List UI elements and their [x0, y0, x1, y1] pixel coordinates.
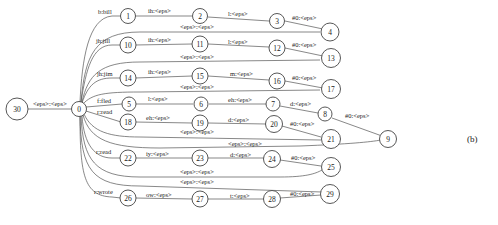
- state-9: 9: [380, 131, 397, 148]
- svg-text:7: 7: [271, 100, 275, 109]
- label-0-25: <eps>:<eps>: [180, 168, 214, 175]
- edge-3-4: [285, 21, 323, 29]
- label-0-9: <eps>:<eps>: [228, 140, 262, 147]
- label-0-4: <eps>:<eps>: [180, 23, 214, 30]
- state-24: 24: [264, 151, 281, 168]
- svg-text:16: 16: [273, 77, 281, 86]
- edge-8-9: [332, 118, 382, 136]
- state-21: 21: [322, 130, 341, 149]
- label-11-12: l:<eps>: [228, 38, 248, 45]
- state-1: 1: [121, 9, 136, 24]
- label-12-13: #0:<eps>: [292, 41, 317, 48]
- label-0-10: jh:jill: [95, 37, 110, 44]
- label-16-17: #0:<eps>: [292, 74, 317, 81]
- state-14: 14: [120, 70, 136, 86]
- svg-text:18: 18: [124, 118, 132, 127]
- edge-19-20: [208, 123, 266, 124]
- svg-text:11: 11: [196, 40, 203, 49]
- label-6-7: eh:<eps>: [228, 96, 252, 103]
- svg-text:19: 19: [196, 119, 204, 128]
- edge-18-19: [135, 122, 192, 123]
- svg-text:4: 4: [328, 28, 332, 37]
- svg-text:20: 20: [270, 120, 278, 129]
- edge-16-17: [285, 81, 323, 88]
- label-14-15: ih:<eps>: [148, 68, 171, 75]
- svg-text:25: 25: [327, 163, 335, 172]
- state-29: 29: [321, 185, 340, 204]
- state-7: 7: [266, 97, 280, 111]
- state-15: 15: [192, 68, 208, 84]
- state-28: 28: [264, 191, 281, 208]
- svg-text:0: 0: [77, 105, 81, 114]
- label-3-4: #0:<eps>: [292, 14, 317, 21]
- state-13: 13: [322, 49, 341, 68]
- state-23: 23: [192, 150, 208, 166]
- label-0-29: <eps>:<eps>: [180, 178, 214, 185]
- svg-text:28: 28: [268, 195, 276, 204]
- svg-text:24: 24: [268, 155, 276, 164]
- state-22: 22: [120, 150, 136, 166]
- svg-text:6: 6: [199, 100, 203, 109]
- label-15-16: m:<eps>: [230, 70, 253, 77]
- label-8-9: #0:<eps>: [345, 112, 370, 119]
- label-0-26: r:wrote: [94, 188, 113, 195]
- label-0-14: jh:jim: [96, 70, 113, 77]
- svg-text:5: 5: [127, 100, 131, 109]
- label-0-5: f:fled: [97, 97, 112, 104]
- label-26-27: ow:<eps>: [146, 191, 172, 198]
- fst-diagram: <eps>:<eps> b:bill ih:<eps> l:<eps> #0:<…: [0, 0, 498, 225]
- label-20-21: #0:<eps>: [290, 120, 315, 127]
- label-1-2: ih:<eps>: [148, 7, 171, 14]
- svg-text:12: 12: [273, 44, 281, 53]
- svg-text:29: 29: [326, 190, 334, 199]
- svg-text:17: 17: [327, 85, 335, 94]
- svg-text:3: 3: [275, 17, 279, 26]
- state-25: 25: [322, 158, 341, 177]
- edge-10-11: [135, 44, 192, 45]
- state-17: 17: [322, 80, 341, 99]
- state-11: 11: [192, 36, 208, 52]
- edge-0-26: [80, 116, 121, 198]
- edge-14-15: [135, 76, 192, 78]
- edge-0-5: [86, 104, 122, 107]
- edge-12-13: [285, 48, 323, 56]
- state-3: 3: [270, 14, 285, 29]
- label-22-23: iy:<eps>: [146, 150, 169, 157]
- state-20: 20: [266, 116, 283, 133]
- label-0-13: <eps>:<eps>: [180, 53, 214, 60]
- state-4: 4: [321, 23, 339, 41]
- state-30: 30: [6, 98, 28, 120]
- svg-text:23: 23: [196, 154, 204, 163]
- label-5-6: l:<eps>: [148, 95, 168, 102]
- figure-caption: (b): [467, 134, 478, 144]
- state-6: 6: [194, 97, 208, 111]
- label-24-25: #0:<eps>: [291, 154, 316, 161]
- label-19-20: d:<eps>: [228, 116, 249, 123]
- edge-2-3: [208, 17, 269, 21]
- state-10: 10: [120, 37, 136, 53]
- state-18: 18: [120, 114, 136, 130]
- state-26: 26: [120, 190, 136, 206]
- svg-text:15: 15: [196, 72, 204, 81]
- svg-text:27: 27: [196, 195, 204, 204]
- svg-text:30: 30: [13, 105, 21, 114]
- svg-text:10: 10: [124, 41, 132, 50]
- label-18-19: eh:<eps>: [146, 114, 170, 121]
- state-2: 2: [193, 9, 208, 24]
- label-30-0: <eps>:<eps>: [33, 100, 67, 107]
- label-10-11: ih:<eps>: [148, 36, 171, 43]
- label-0-1: b:bill: [98, 8, 112, 15]
- state-8: 8: [318, 107, 332, 121]
- label-27-28: t:<eps>: [230, 192, 250, 199]
- svg-text:26: 26: [124, 194, 132, 203]
- svg-text:13: 13: [327, 54, 335, 63]
- svg-text:14: 14: [124, 74, 132, 83]
- svg-text:21: 21: [327, 135, 335, 144]
- label-7-8: d:<eps>: [290, 100, 311, 107]
- state-0: 0: [72, 102, 87, 117]
- label-0-17: <eps>:<eps>: [180, 83, 214, 90]
- edge-20-21: [282, 126, 321, 137]
- label-0-18: r:read: [97, 108, 113, 115]
- state-19: 19: [192, 115, 208, 131]
- label-2-3: l:<eps>: [228, 10, 248, 17]
